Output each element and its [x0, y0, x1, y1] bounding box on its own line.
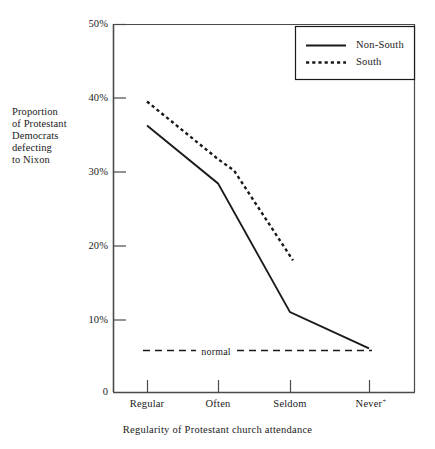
- y-axis-title-line-1: Proportion: [12, 106, 108, 118]
- x-tick-label-often: Often: [206, 398, 231, 409]
- legend-label-south: South: [356, 56, 382, 67]
- y-axis-ticks: [114, 25, 127, 321]
- chart-plot-area: [0, 0, 435, 449]
- y-axis-title-line-4: defecting: [12, 142, 108, 154]
- y-tick-label-50: 50%: [74, 18, 108, 29]
- series-line-south: [147, 102, 293, 261]
- y-axis-title: Proportion of Protestant Democrats defec…: [12, 106, 108, 166]
- x-tick-label-never-text: Never: [356, 398, 383, 409]
- x-axis-title: Regularity of Protestant church attendan…: [0, 424, 435, 435]
- y-tick-label-30: 30%: [74, 166, 108, 177]
- y-axis-title-line-2: of Protestant: [12, 118, 108, 130]
- chart-figure: 50% 40% 30% 20% 10% 0 Proportion of Prot…: [0, 0, 435, 449]
- y-tick-label-20: 20%: [74, 240, 108, 251]
- x-tick-label-seldom: Seldom: [273, 398, 306, 409]
- y-tick-label-40: 40%: [74, 92, 108, 103]
- legend-label-non-south: Non-South: [356, 39, 404, 50]
- x-tick-label-regular: Regular: [130, 398, 165, 409]
- never-superscript-marker: +: [382, 397, 386, 405]
- series-line-non-south: [147, 126, 369, 349]
- x-tick-label-never: Never+: [356, 398, 387, 409]
- legend-box: [296, 27, 415, 80]
- y-axis-title-line-3: Democrats: [12, 130, 108, 142]
- x-axis-ticks: [148, 380, 370, 393]
- y-tick-label-0: 0: [74, 386, 108, 397]
- y-axis-title-line-5: to Nixon: [12, 154, 108, 166]
- y-tick-label-10: 10%: [74, 314, 108, 325]
- normal-annotation-label: normal: [199, 346, 233, 357]
